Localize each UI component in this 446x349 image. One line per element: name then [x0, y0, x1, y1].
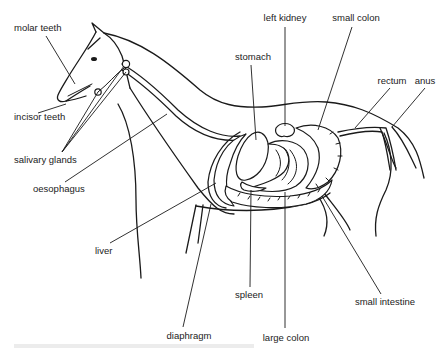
- horse-thigh: [375, 133, 391, 236]
- leader-anus: [392, 88, 425, 127]
- faded-caption: [14, 344, 254, 348]
- oesophagus-tube-inner: [122, 70, 240, 140]
- label-anus: anus: [415, 75, 436, 86]
- label-liver: liver: [95, 245, 112, 256]
- label-oesophagus: oesophagus: [33, 183, 85, 194]
- leader-rectum: [355, 88, 390, 128]
- teeth-row: [68, 84, 92, 96]
- digestive-tract: [95, 60, 396, 208]
- label-small-intestine: small intestine: [355, 296, 415, 307]
- label-diaphragm: diaphragm: [167, 330, 212, 341]
- leader-small-colon: [318, 27, 352, 130]
- label-rectum: rectum: [377, 75, 406, 86]
- horse-eye: [91, 57, 97, 61]
- horse-front-leg: [118, 104, 141, 278]
- label-large-colon: large colon: [263, 332, 309, 343]
- leader-liver: [110, 183, 216, 243]
- label-spleen: spleen: [235, 289, 263, 300]
- leader-diaphragm: [183, 204, 211, 327]
- label-molar-teeth: molar teeth: [14, 22, 62, 33]
- horse-foreleg-lines: [186, 205, 203, 253]
- leader-oesophagus: [65, 114, 167, 182]
- label-small-colon: small colon: [332, 12, 380, 23]
- label-incisor-teeth: incisor teeth: [14, 111, 65, 122]
- leader-stomach: [251, 65, 256, 140]
- leader-molar-teeth: [46, 36, 75, 84]
- horse-head-outline: [92, 23, 130, 88]
- leader-small-intestine: [322, 196, 381, 294]
- label-left-kidney: left kidney: [264, 12, 307, 23]
- leader-salivary-glands: [62, 66, 124, 152]
- leader-salivary-glands: [62, 72, 126, 152]
- rectum-tube: [338, 127, 396, 170]
- horse-digestive-system-diagram: molar teeth incisor teeth salivary gland…: [0, 0, 446, 349]
- rectum-tube-inner: [340, 131, 390, 170]
- label-salivary-glands: salivary glands: [14, 154, 77, 165]
- horse-hind-leg: [318, 193, 350, 236]
- oesophagus-tube: [122, 64, 240, 136]
- label-stomach: stomach: [235, 51, 271, 62]
- leader-lines: [38, 27, 425, 328]
